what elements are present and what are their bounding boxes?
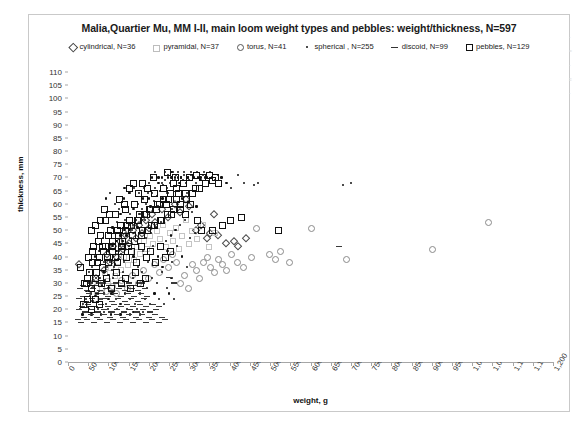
data-point-discoid (114, 309, 120, 310)
data-point-pebbles (97, 232, 104, 239)
data-point-spherical (137, 266, 139, 268)
legend-item-discoid[interactable]: discoid, N=99 (391, 42, 448, 51)
data-point-pebbles (128, 248, 135, 255)
data-point-discoid (140, 309, 146, 310)
data-point-discoid (102, 298, 108, 299)
data-point-pebbles (126, 217, 133, 224)
y-tick-label: 25 (36, 292, 62, 301)
data-point-pebbles (109, 248, 116, 255)
scan-artifact-mark: - (569, 58, 581, 72)
data-point-torus (240, 264, 247, 271)
legend-item-torus[interactable]: torus, N=41 (236, 42, 286, 51)
data-point-discoid (118, 296, 124, 297)
data-point-spherical (167, 176, 169, 178)
data-point-spherical (91, 266, 93, 268)
data-point-discoid (150, 304, 156, 305)
data-point-pebbles (175, 190, 182, 197)
data-point-discoid (112, 293, 118, 294)
data-point-spherical (179, 224, 181, 226)
y-tick-label: 35 (36, 265, 62, 274)
data-point-pebbles (182, 211, 189, 218)
data-point-torus (181, 272, 188, 279)
legend-marker-square-icon (465, 43, 473, 51)
data-point-spherical (132, 277, 134, 279)
data-point-discoid (142, 288, 148, 289)
data-point-discoid (126, 314, 132, 315)
data-point-spherical (189, 237, 191, 239)
legend-item-spherical[interactable]: spherical , N=255 (303, 42, 373, 51)
data-point-pebbles (172, 174, 179, 181)
data-point-spherical (177, 171, 179, 173)
data-point-pebbles (103, 275, 110, 282)
chart-legend: cylindrical, N=36pyramidal, N=37torus, N… (28, 42, 570, 51)
data-point-spherical (99, 277, 101, 279)
data-point-spherical (132, 255, 134, 257)
data-point-discoid (99, 293, 105, 294)
data-point-discoid (134, 311, 140, 312)
data-point-spherical (157, 255, 159, 257)
data-point-pebbles (182, 190, 189, 197)
data-point-torus (272, 256, 279, 263)
data-point-pebbles (136, 211, 143, 218)
data-point-discoid (139, 314, 145, 315)
data-point-discoid (133, 317, 139, 318)
data-point-discoid (127, 309, 133, 310)
data-point-spherical (195, 205, 197, 207)
data-point-discoid (141, 298, 147, 299)
data-point-pebbles (93, 269, 100, 276)
data-point-cylindrical (210, 210, 218, 218)
data-point-discoid (126, 282, 132, 283)
data-point-discoid (97, 290, 103, 291)
data-point-pebbles (151, 190, 158, 197)
data-point-pebbles (84, 296, 91, 303)
data-point-discoid (125, 293, 131, 294)
data-point-discoid (143, 322, 149, 323)
data-point-spherical (136, 308, 138, 310)
legend-marker-dash-icon (391, 43, 399, 51)
data-point-torus (165, 264, 172, 271)
data-point-discoid (109, 301, 115, 302)
data-point-spherical (128, 192, 130, 194)
data-point-spherical (105, 303, 107, 305)
scan-artifact-mark: ≡ (569, 72, 581, 86)
data-point-torus (177, 280, 184, 287)
data-point-pebbles (209, 227, 216, 234)
data-point-discoid (135, 290, 141, 291)
data-point-pebbles (157, 243, 164, 250)
data-point-torus (286, 259, 293, 266)
data-point-spherical (123, 261, 125, 263)
data-point-spherical (144, 219, 146, 221)
data-point-spherical (119, 303, 121, 305)
data-point-pebbles (192, 185, 199, 192)
legend-item-pebbles[interactable]: pebbles, N=129 (465, 42, 529, 51)
data-point-spherical (154, 171, 156, 173)
data-point-spherical (110, 313, 112, 315)
data-point-torus (185, 285, 192, 292)
data-point-pebbles (122, 275, 129, 282)
data-point-spherical (195, 182, 197, 184)
data-point-discoid (101, 309, 107, 310)
legend-label: torus, N=41 (247, 42, 286, 51)
data-point-discoid (130, 322, 136, 323)
legend-item-cylindrical[interactable]: cylindrical, N=36 (69, 42, 136, 51)
scan-artifact-mark: = (569, 44, 581, 58)
y-tick-label: 100 (36, 94, 62, 103)
data-point-spherical (81, 313, 83, 315)
y-tick-label: 0 (36, 358, 62, 367)
legend-marker-dot-icon (303, 43, 311, 51)
data-point-pyramidal (125, 262, 131, 268)
data-point-discoid (78, 322, 84, 323)
data-point-discoid (144, 296, 150, 297)
data-point-spherical (173, 298, 175, 300)
data-point-pebbles (107, 227, 114, 234)
legend-item-pyramidal[interactable]: pyramidal, N=37 (152, 42, 219, 51)
data-point-discoid (121, 311, 127, 312)
data-point-discoid (107, 317, 113, 318)
data-point-pebbles (117, 222, 124, 229)
data-point-pebbles (164, 169, 171, 176)
data-point-spherical (186, 266, 188, 268)
y-tick-label: 80 (36, 147, 62, 156)
legend-marker-circle-icon (236, 43, 244, 51)
data-point-pebbles (156, 201, 163, 208)
data-point-spherical (147, 261, 149, 263)
